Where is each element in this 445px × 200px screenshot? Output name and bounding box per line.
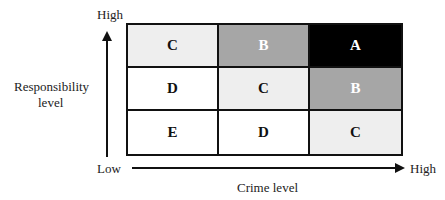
matrix-cell-r3c3: C — [310, 111, 401, 154]
matrix-cell-r2c1: D — [128, 68, 219, 111]
cell-label: B — [258, 37, 268, 54]
matrix-cell-r2c2: C — [219, 68, 310, 111]
risk-matrix: C B A D C B E D C — [126, 23, 403, 156]
matrix-cell-r1c3: A — [310, 25, 401, 68]
cell-label: D — [258, 124, 269, 141]
cell-label: C — [258, 80, 269, 97]
y-axis-low-label: Low — [97, 161, 121, 177]
x-axis-title: Crime level — [237, 180, 298, 196]
y-axis-title-line2: level — [38, 95, 63, 111]
matrix-cell-r3c2: D — [219, 111, 310, 154]
matrix-cell-r1c2: B — [219, 25, 310, 68]
cell-label: B — [350, 80, 360, 97]
y-axis-high-label: High — [97, 7, 123, 23]
cell-label: A — [350, 37, 361, 54]
x-axis-arrowhead-icon — [395, 163, 405, 173]
y-axis-title-line1: Responsibility — [14, 79, 89, 95]
cell-label: C — [167, 37, 178, 54]
matrix-cell-r3c1: E — [128, 111, 219, 154]
x-axis-line — [132, 167, 397, 169]
cell-label: C — [350, 124, 361, 141]
y-axis-line — [106, 40, 108, 157]
matrix-cell-r2c3: B — [310, 68, 401, 111]
cell-label: D — [167, 80, 178, 97]
cell-label: E — [167, 124, 177, 141]
matrix-cell-r1c1: C — [128, 25, 219, 68]
x-axis-high-label: High — [410, 161, 436, 177]
